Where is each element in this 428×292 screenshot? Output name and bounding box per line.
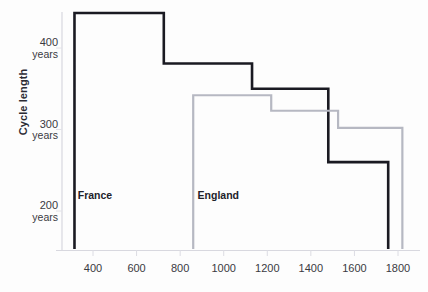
x-tick-label: 800 <box>158 262 202 274</box>
x-tick-label: 1800 <box>376 262 420 274</box>
x-tick-label: 1000 <box>202 262 246 274</box>
series-annotation-france: France <box>78 189 112 201</box>
x-tick-label: 400 <box>71 262 115 274</box>
x-tick-label: 1400 <box>289 262 333 274</box>
series-annotation-england: England <box>198 189 239 201</box>
x-axis-tick-labels: 40060080010001200140016001800 <box>0 0 428 292</box>
x-tick-label: 1600 <box>332 262 376 274</box>
x-tick-label: 600 <box>115 262 159 274</box>
cycle-length-step-chart: Cycle length 200years300years400years 40… <box>0 0 428 292</box>
x-tick-label: 1200 <box>245 262 289 274</box>
